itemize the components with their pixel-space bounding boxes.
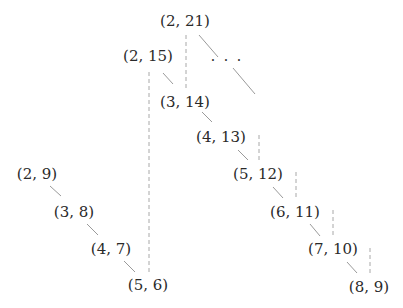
solid-edge [233,68,255,94]
solid-edge [50,186,61,196]
pair-tree-diagram: (2, 21)(2, 15)(3, 14)(4, 13)(5, 12)(6, 1… [0,0,403,308]
node-label: (3, 14) [160,93,210,111]
node-label: (3, 8) [54,203,94,221]
node-label: (5, 12) [233,165,283,183]
node-label: (8, 9) [349,278,389,296]
node-label: (7, 10) [308,240,358,258]
node-label: (4, 13) [196,128,246,146]
solid-edge [310,224,320,236]
solid-edge [87,224,98,235]
solid-edge [238,150,248,160]
solid-edge [163,73,173,84]
solid-edge [202,112,212,122]
edges-layer [0,0,403,308]
node-label: (4, 7) [91,240,131,258]
node-label: (2, 21) [160,12,210,30]
node-label: (6, 11) [270,203,320,221]
solid-edge [124,261,135,272]
node-label: (2, 9) [17,165,57,183]
ellipsis-continuation: · · · [211,52,243,68]
solid-edge [273,187,283,198]
node-label: (5, 6) [128,276,168,294]
node-label: (2, 15) [123,47,173,65]
solid-edge [347,262,357,273]
